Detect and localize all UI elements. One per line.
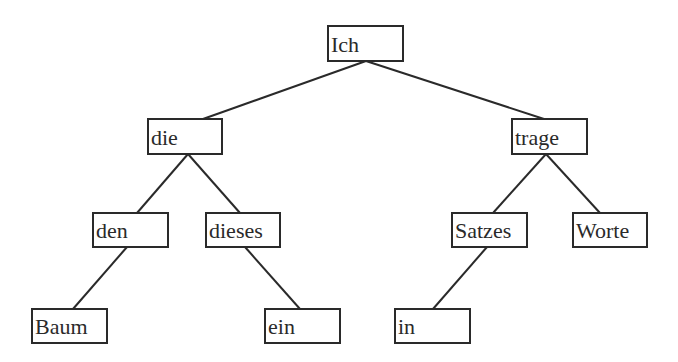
edge-den-baum	[73, 247, 127, 309]
edge-trage-satzes	[493, 154, 546, 213]
edge-die-den	[137, 154, 188, 213]
tree-node-ein: ein	[265, 309, 340, 343]
node-label: Baum	[35, 314, 88, 339]
node-label: Worte	[576, 218, 629, 243]
node-label: die	[151, 125, 178, 150]
edge-trage-worte	[546, 154, 600, 213]
tree-node-den: den	[93, 213, 168, 247]
node-label: den	[96, 218, 128, 243]
node-label: trage	[515, 125, 559, 150]
tree-node-ich: Ich	[328, 26, 403, 61]
node-label: dieses	[209, 218, 263, 243]
edge-satzes-in	[433, 247, 487, 309]
tree-diagram: IchdietragedendiesesSatzesWorteBaumeinin	[0, 0, 678, 362]
tree-node-worte: Worte	[573, 213, 647, 247]
tree-node-trage: trage	[512, 119, 587, 154]
tree-node-in: in	[395, 309, 470, 343]
tree-node-dieses: dieses	[206, 213, 280, 247]
node-label: Satzes	[455, 218, 511, 243]
edge-layer	[73, 61, 600, 309]
edge-ich-trage	[366, 61, 544, 119]
tree-node-baum: Baum	[32, 309, 107, 343]
node-label: Ich	[331, 32, 359, 57]
edge-dieses-ein	[245, 247, 300, 309]
tree-node-satzes: Satzes	[452, 213, 527, 247]
node-label: in	[398, 314, 415, 339]
tree-node-die: die	[148, 119, 222, 154]
node-layer: IchdietragedendiesesSatzesWorteBaumeinin	[32, 26, 647, 343]
edge-die-dieses	[188, 154, 240, 213]
node-label: ein	[268, 314, 295, 339]
edge-ich-die	[203, 61, 366, 119]
